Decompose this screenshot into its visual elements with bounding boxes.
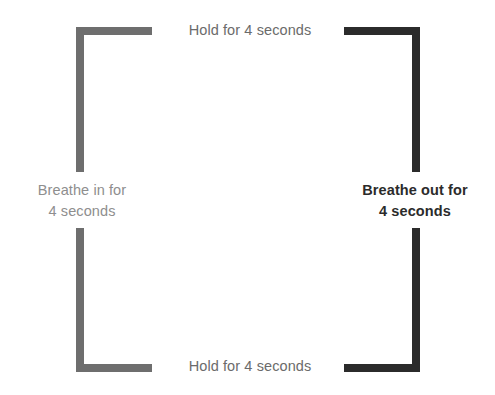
exhale-bracket-top-arm [344, 27, 420, 35]
exhale-bracket-upper-stem [412, 27, 420, 172]
box-breathing-diagram: Hold for 4 seconds Breathe in for 4 seco… [0, 0, 495, 395]
exhale-bracket-bottom-arm [344, 364, 420, 372]
inhale-bracket-upper-stem [76, 27, 84, 172]
inhale-bracket-bottom-arm [76, 364, 152, 372]
exhale-bracket-lower-stem [412, 228, 420, 372]
inhale-bracket-top-arm [76, 27, 152, 35]
inhale-bracket-lower-stem [76, 228, 84, 372]
hold-bottom-label: Hold for 4 seconds [150, 356, 350, 376]
breathe-in-label: Breathe in for 4 seconds [2, 180, 162, 222]
hold-top-label: Hold for 4 seconds [150, 20, 350, 40]
breathe-out-label: Breathe out for 4 seconds [335, 180, 495, 222]
